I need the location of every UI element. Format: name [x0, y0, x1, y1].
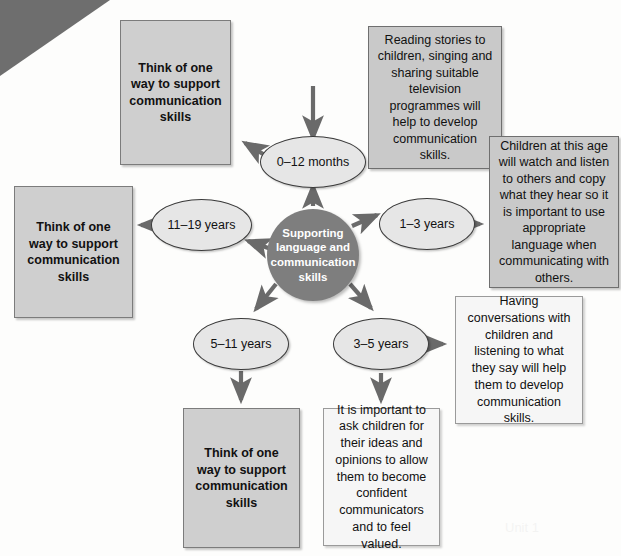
info-box-3-5-years-bottom-label: It is important to ask children for thei…	[332, 402, 431, 553]
info-box-0-12-months-label: Children at this age will watch and list…	[498, 138, 610, 287]
corner-wedge-decoration	[0, 0, 110, 76]
scan-bleed-artifact: Unit 1	[505, 520, 539, 535]
age-node-3-5-years: 3–5 years	[333, 318, 429, 370]
task-box-top: Think of one way to support communicatio…	[120, 20, 231, 165]
info-box-3-5-years-right: Having conversations with children and l…	[455, 296, 583, 424]
age-node-11-19-years: 11–19 years	[151, 199, 252, 251]
age-node-5-11-years-label: 5–11 years	[211, 337, 272, 351]
task-box-bottom: Think of one way to support communicatio…	[183, 408, 300, 548]
info-box-3-5-years-right-label: Having conversations with children and l…	[464, 293, 574, 427]
age-node-3-5-years-label: 3–5 years	[354, 337, 409, 351]
task-box-bottom-label: Think of one way to support communicatio…	[192, 445, 291, 511]
age-node-0-12-months: 0–12 months	[260, 136, 366, 188]
age-node-0-12-months-label: 0–12 months	[277, 155, 349, 169]
age-node-1-3-years: 1–3 years	[379, 198, 475, 250]
info-box-1-3-years: Reading stories to children, singing and…	[368, 26, 502, 169]
task-box-left-label: Think of one way to support communicatio…	[23, 219, 124, 285]
central-hub-label: Supporting language and communication sk…	[271, 226, 356, 285]
info-box-1-3-years-label: Reading stories to children, singing and…	[377, 32, 493, 164]
diagram-page: Think of one way to support communicatio…	[0, 0, 621, 556]
task-box-top-label: Think of one way to support communicatio…	[129, 60, 222, 126]
info-box-0-12-months: Children at this age will watch and list…	[489, 136, 619, 288]
age-node-5-11-years: 5–11 years	[193, 318, 289, 370]
central-hub-node: Supporting language and communication sk…	[267, 209, 359, 301]
age-node-1-3-years-label: 1–3 years	[400, 217, 455, 231]
task-box-left: Think of one way to support communicatio…	[14, 186, 133, 318]
info-box-3-5-years-bottom: It is important to ask children for thei…	[323, 408, 440, 546]
age-node-11-19-years-label: 11–19 years	[168, 218, 236, 232]
